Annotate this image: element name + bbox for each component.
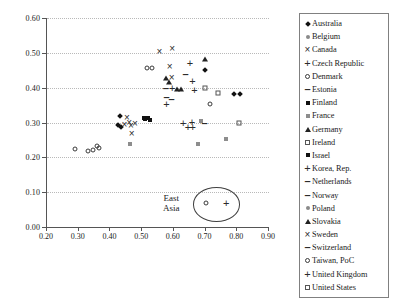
legend-item-switzerland[interactable]: –Switzerland [303,241,386,254]
dash-icon: – [304,190,310,201]
legend-item-israel[interactable]: Israel [303,149,386,162]
triangle-filled-icon [305,127,311,132]
legend-item-finland[interactable]: Finland [303,96,386,109]
square-filled-icon [146,116,150,120]
legend-marker [303,111,312,120]
legend-label: United Kingdom [312,270,367,279]
legend-item-belgium[interactable]: Belgium [303,30,386,43]
data-point: + [185,122,191,133]
data-point: + [163,99,169,110]
legend-marker [303,32,312,41]
dash-icon: – [182,68,188,79]
legend-marker [303,125,312,134]
x-tick-label: 0.50 [134,232,148,241]
plus-icon: + [187,58,193,69]
y-tick [42,123,46,124]
legend-marker: – [303,243,312,252]
legend-label: Finland [312,98,337,107]
data-point: × [167,62,173,72]
legend-item-poland[interactable]: Poland [303,202,386,215]
x-tick-label: 0.20 [39,232,53,241]
square-open-icon [215,90,220,95]
x-tick-label: 0.60 [166,232,180,241]
gridline [47,123,269,124]
square-small-icon [306,114,310,118]
legend-label: Ireland [312,138,335,147]
legend-label: Israel [312,151,330,160]
legend-item-united-states[interactable]: United States [303,281,386,294]
legend-item-estonia[interactable]: –Estonia [303,83,386,96]
legend-label: Belgium [312,32,340,41]
legend-marker: × [303,230,312,239]
legend-label: Netherlands [312,177,352,186]
gridline [47,53,269,54]
diamond-filled-icon [305,21,311,27]
legend-item-ireland[interactable]: Ireland [303,136,386,149]
square-open-icon [305,285,310,290]
x-mark-icon: × [129,129,135,139]
legend-marker [303,283,312,292]
data-point [142,116,146,120]
legend-item-denmark[interactable]: Denmark [303,70,386,83]
gridline [47,157,269,158]
x-tick [236,227,237,231]
y-tick-label: 0.60 [26,14,40,23]
dot-small-icon [306,206,310,210]
east-asia-label-line2: Asia [151,203,191,213]
x-tick-label: 0.70 [198,232,212,241]
y-tick [42,53,46,54]
data-point [215,90,220,95]
square-filled-icon [306,153,310,157]
square-filled-icon [143,117,147,121]
legend-label: Norway [312,191,338,200]
plus-icon: + [304,163,310,174]
x-tick [78,227,79,231]
legend-label: United States [312,283,356,292]
legend-item-czech-republic[interactable]: +Czech Republic [303,57,386,70]
legend-item-germany[interactable]: Germany [303,123,386,136]
legend-item-korea-rep[interactable]: +Korea, Rep. [303,162,386,175]
x-mark-icon: × [157,47,163,57]
legend-item-taiwan-poc[interactable]: Taiwan, PoC [303,254,386,267]
east-asia-label-line1: East [151,193,191,203]
data-point: + [189,76,195,87]
data-point: × [132,119,138,129]
y-tick [42,192,46,193]
legend-item-sweden[interactable]: ×Sweden [303,228,386,241]
data-point [116,123,120,127]
data-point [146,116,150,120]
x-mark-icon: × [305,230,311,240]
legend-item-slovakia[interactable]: Slovakia [303,215,386,228]
legend-item-france[interactable]: France [303,109,386,122]
legend-item-canada[interactable]: ×Canada [303,43,386,56]
x-tick [141,227,142,231]
legend-label: Slovakia [312,217,341,226]
y-tick-label: 0.40 [26,83,40,92]
data-point [232,92,236,96]
data-point [119,125,123,129]
circle-open-icon [150,66,155,71]
square-small-icon [224,137,228,141]
legend-item-netherlands[interactable]: –Netherlands [303,175,386,188]
circle-open-icon [208,102,213,107]
legend-label: Poland [312,204,335,213]
legend-marker: × [303,45,312,54]
circle-open-icon [305,258,310,263]
legend-label: Australia [312,19,342,28]
data-point [203,68,207,72]
legend-label: Germany [312,125,343,134]
x-mark-icon: × [305,45,311,55]
data-point [73,147,78,152]
square-filled-icon [142,116,146,120]
y-tick [42,88,46,89]
data-point: × [129,129,135,139]
circle-open-icon [94,144,99,149]
legend-label: Korea, Rep. [312,164,351,173]
legend-item-united-kingdom[interactable]: +United Kingdom [303,268,386,281]
x-tick [205,227,206,231]
x-mark-icon: × [132,119,138,129]
legend-item-norway[interactable]: –Norway [303,188,386,201]
data-point [118,114,122,118]
legend-item-australia[interactable]: Australia [303,17,386,30]
square-open-icon [305,140,310,145]
